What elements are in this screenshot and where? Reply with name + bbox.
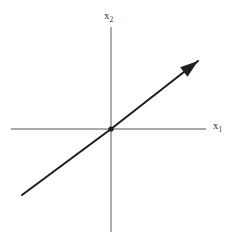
- origin-dot: [108, 126, 113, 131]
- figure-root: x2 x1: [0, 0, 229, 240]
- plot-background: [0, 0, 229, 240]
- y-axis-label-subscript: 2: [110, 15, 114, 24]
- x-axis-label-subscript: 1: [219, 125, 223, 134]
- plot-canvas: x2 x1: [0, 0, 229, 240]
